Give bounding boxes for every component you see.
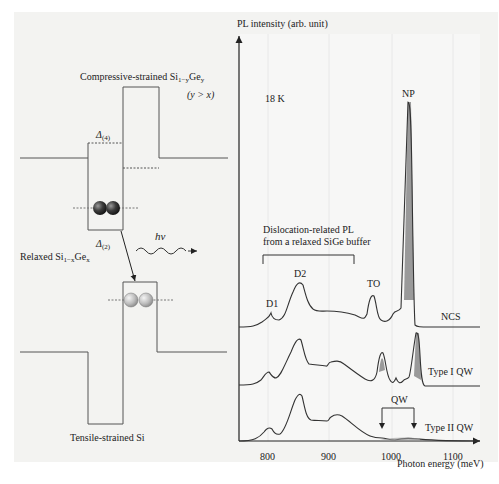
valence-band-left (20, 282, 227, 424)
electron-icon (93, 201, 107, 215)
hole-icon (124, 293, 138, 307)
photon-wave-icon (136, 248, 186, 254)
series-label-ncs: NCS (441, 311, 460, 322)
x-tick-800: 800 (260, 451, 275, 462)
pl-chart: PL intensity (arb. unit) Photon energy (… (237, 18, 483, 470)
photon-label: hν (155, 230, 166, 242)
np-label: NP (402, 88, 415, 99)
hole-icon (139, 293, 153, 307)
figure-svg: Compressive-strained Si1−yGey (y > x) Δ(… (0, 0, 499, 484)
series-label-type-ii: Type II QW (425, 422, 474, 433)
relaxed-label: Relaxed Si1−xGex (20, 251, 90, 264)
x-tick-900: 900 (321, 451, 336, 462)
transition-arrow (121, 231, 135, 281)
compressive-label: Compressive-strained Si1−yGey (80, 71, 205, 84)
series-label-type-i: Type I QW (428, 366, 473, 377)
qw-label: QW (391, 394, 408, 405)
condition-label: (y > x) (187, 89, 215, 101)
x-tick-1100: 1100 (443, 451, 463, 462)
y-axis-label: PL intensity (arb. unit) (237, 18, 328, 30)
tensile-label: Tensile-strained Si (70, 432, 145, 443)
d2-label: D2 (294, 268, 306, 279)
delta2-well (88, 143, 123, 230)
to-label: TO (367, 278, 380, 289)
electron-icon (106, 201, 120, 215)
d1-label: D1 (266, 298, 278, 309)
delta2-label: Δ(2) (95, 238, 111, 251)
x-axis-label: Photon energy (meV) (397, 458, 483, 470)
delta4-label: Δ(4) (95, 129, 111, 142)
dislocation-label-line1: Dislocation-related PL (263, 224, 354, 235)
compressive-sige-barrier (123, 87, 159, 168)
x-tick-1000: 1000 (381, 451, 401, 462)
figure: Compressive-strained Si1−yGey (y > x) Δ(… (0, 0, 499, 484)
temperature-label: 18 K (265, 93, 286, 104)
dislocation-label-line2: from a relaxed SiGe buffer (263, 236, 371, 247)
